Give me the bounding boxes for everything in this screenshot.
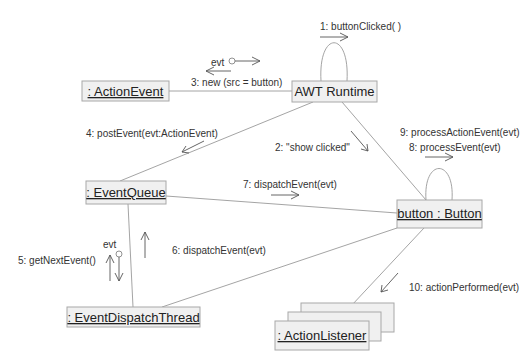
object-event-dispatch-thread[interactable]: : EventDispatchThread [67, 307, 200, 327]
self-loop-runtime [321, 43, 347, 81]
object-label: : EventQueue [86, 185, 166, 200]
arrow-right-icon [235, 57, 260, 65]
message-1-label: 1: buttonClicked( ) [320, 21, 401, 32]
message-8-label: 8: processEvent(evt) [409, 142, 501, 153]
object-event-queue[interactable]: : EventQueue [86, 181, 166, 204]
arrow-down-right-icon [351, 131, 368, 151]
message-2-label: 2: "show clicked" [275, 142, 350, 153]
arrow-right-icon [320, 33, 348, 41]
object-label: AWT Runtime [294, 84, 374, 99]
self-loop-button [426, 169, 452, 201]
link-eventqueue-dispatchthread [128, 204, 133, 307]
arrow-down-left-icon [381, 273, 398, 292]
object-label: button : Button [397, 206, 482, 221]
arrow-right-icon [271, 191, 299, 199]
message-9-label: 9: processActionEvent(evt) [400, 127, 520, 138]
message-7-label: 7: dispatchEvent(evt) [243, 179, 337, 190]
arrow-right-icon [425, 153, 453, 161]
object-label: : EventDispatchThread [67, 310, 199, 325]
object-action-event[interactable]: : ActionEvent [82, 81, 169, 101]
return-object-icon [229, 58, 235, 64]
message-10-label: 10: actionPerformed(evt) [409, 282, 519, 293]
message-3-label: 3: new (src = button) [191, 77, 282, 88]
arrow-down-icon [115, 257, 123, 281]
arrow-left-icon [206, 67, 231, 75]
object-label: : ActionEvent [88, 84, 164, 99]
arrow-up-icon [141, 232, 149, 258]
return-object-icon [116, 251, 122, 257]
object-label: : ActionListener [278, 328, 368, 343]
arrow-up-icon [106, 255, 114, 281]
collaboration-diagram: : ActionEvent AWT Runtime : EventQueue b… [0, 0, 530, 362]
object-awt-runtime[interactable]: AWT Runtime [292, 81, 377, 102]
return-evt-label: evt [103, 239, 117, 250]
message-6-label: 6: dispatchEvent(evt) [172, 245, 266, 256]
object-action-listener-multi[interactable]: : ActionListener [275, 303, 394, 350]
message-5-label: 5: getNextEvent() [18, 255, 96, 266]
link-eventqueue-button [166, 196, 397, 213]
object-button[interactable]: button : Button [397, 200, 482, 228]
message-4-label: 4: postEvent(evt:ActionEvent) [86, 128, 218, 139]
return-evt-label: evt [211, 57, 225, 68]
